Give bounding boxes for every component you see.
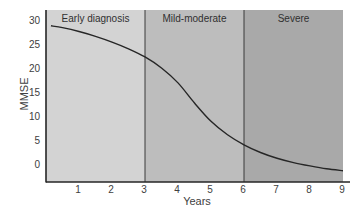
x-tick-label: 1 [75,184,81,195]
y-tick-label: 0 [34,159,40,170]
x-tick-label: 3 [141,184,147,195]
stage-label: Early diagnosis [62,13,130,24]
y-tick-label: 5 [34,135,40,146]
stage-regions [46,10,343,182]
x-tick-label: 8 [306,184,312,195]
y-tick-label: 15 [29,87,41,98]
stage-region-mild-moderate [145,10,244,182]
x-tick-label: 4 [174,184,180,195]
x-tick-label: 5 [207,184,213,195]
y-tick-label: 20 [29,63,41,74]
mmse-chart: Early diagnosisMild-moderateSevere 05101… [0,0,363,214]
x-tick-label: 2 [108,184,114,195]
x-tick-label: 6 [240,184,246,195]
y-tick-label: 30 [29,15,41,26]
y-axis-title: MMSE [18,78,30,111]
y-axis-ticks: 051015202530 [29,15,41,170]
stage-label: Mild-moderate [163,13,227,24]
x-tick-label: 7 [273,184,279,195]
x-axis-title: Years [183,195,211,207]
x-axis-ticks: 123456789 [75,184,345,195]
stage-region-severe [244,10,343,182]
y-tick-label: 25 [29,39,41,50]
x-tick-label: 9 [339,184,345,195]
y-tick-label: 10 [29,111,41,122]
stage-label: Severe [278,13,310,24]
